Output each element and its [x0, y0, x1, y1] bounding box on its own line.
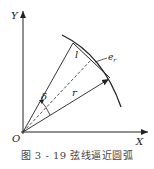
y-axis-label: Y	[11, 10, 19, 21]
figure-caption: 图 3 - 19 弦线逼近圆弧	[0, 147, 154, 162]
chord-label: l	[75, 49, 78, 60]
angle-label: δ	[41, 91, 47, 102]
radius-label: r	[72, 87, 78, 98]
chord-arc-diagram: Y X O l er r δ	[0, 0, 154, 169]
circular-arc	[62, 35, 121, 107]
origin-label: O	[12, 133, 20, 144]
x-axis-label: X	[135, 136, 144, 147]
error-leader-line	[95, 58, 107, 62]
error-subscript: r	[113, 56, 117, 63]
error-label: er	[108, 52, 117, 63]
